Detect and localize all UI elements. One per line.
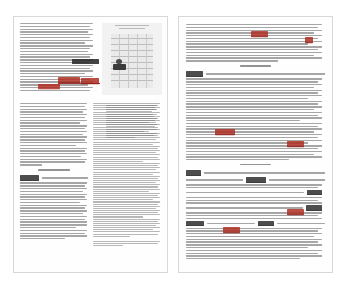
figure-caption-line bbox=[115, 25, 149, 26]
speaker-label-scott bbox=[186, 170, 201, 175]
annotation-underline bbox=[58, 83, 100, 84]
text-line bbox=[20, 65, 93, 66]
annotation-kathy bbox=[287, 141, 304, 147]
text-line bbox=[20, 70, 93, 71]
annotation-edward-felix bbox=[72, 59, 99, 64]
text-line bbox=[20, 68, 90, 69]
centered-interjection-baby-ones bbox=[186, 65, 325, 68]
annotation-kathy bbox=[223, 227, 240, 233]
figure-caption-line bbox=[119, 28, 145, 29]
centered-interjection bbox=[20, 169, 88, 172]
paragraph bbox=[186, 24, 325, 62]
paragraph-with-speaker bbox=[186, 71, 325, 160]
text-line bbox=[20, 26, 90, 27]
text-line bbox=[20, 73, 85, 74]
text-line bbox=[20, 31, 88, 32]
text-line bbox=[20, 76, 93, 77]
text-line bbox=[20, 40, 93, 41]
speaker-label-scott bbox=[307, 190, 322, 195]
text-line bbox=[20, 23, 93, 24]
figure-grayscale-table bbox=[102, 23, 162, 95]
speaker-label-kathy bbox=[306, 205, 322, 210]
text-line bbox=[20, 54, 93, 55]
speaker-label-kathy bbox=[258, 221, 274, 226]
right-page-body bbox=[179, 17, 332, 259]
annotation-kathy bbox=[287, 209, 304, 215]
figure-dark-bar bbox=[113, 64, 126, 70]
speaker-label-escape bbox=[246, 177, 266, 182]
page-left bbox=[13, 16, 168, 273]
text-line bbox=[20, 45, 93, 46]
annotation-ed bbox=[305, 37, 313, 43]
left-page-column-1 bbox=[20, 103, 88, 248]
paragraph-with-speaker bbox=[20, 175, 88, 239]
annotation-mike-says bbox=[215, 129, 235, 135]
paragraph-with-speaker bbox=[186, 170, 325, 259]
left-page-column-2 bbox=[93, 103, 161, 248]
text-line bbox=[20, 48, 90, 49]
centered-interjection-baby-ones bbox=[186, 164, 325, 167]
document-spread bbox=[0, 0, 347, 290]
text-line bbox=[20, 42, 85, 43]
text-line bbox=[20, 34, 93, 35]
text-line bbox=[20, 51, 88, 52]
annotation-kathy bbox=[251, 31, 268, 37]
figure-grid bbox=[111, 34, 153, 88]
text-line bbox=[20, 56, 90, 57]
text-line bbox=[20, 90, 90, 91]
text-line bbox=[20, 29, 93, 30]
annotation-tradeoffs bbox=[38, 84, 60, 89]
speaker-label-escape bbox=[186, 71, 203, 76]
speaker-label-escape bbox=[186, 221, 204, 226]
speaker-label-escape bbox=[20, 175, 39, 180]
text-line bbox=[20, 37, 90, 38]
page-right bbox=[178, 16, 333, 273]
paragraph bbox=[20, 103, 88, 166]
paragraph bbox=[93, 103, 161, 246]
